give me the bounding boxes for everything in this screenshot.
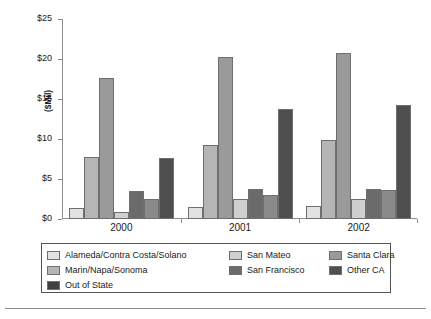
bar (278, 109, 293, 219)
bar (381, 190, 396, 219)
bar (396, 105, 411, 219)
legend-item-label: San Francisco (247, 266, 305, 275)
bar (159, 158, 174, 219)
bar (336, 53, 351, 219)
x-tick-label: 2001 (200, 222, 280, 233)
bar (188, 207, 203, 219)
legend-item[interactable]: Other CA (329, 266, 421, 275)
legend-item[interactable]: Out of State (47, 281, 229, 290)
bar (114, 212, 129, 219)
legend-swatch-icon (47, 266, 60, 275)
legend-item-label: Santa Clara (347, 251, 395, 260)
y-tick-label: $15 (37, 94, 52, 103)
x-tick-mark (299, 219, 300, 223)
bar (203, 145, 218, 219)
legend-item[interactable]: San Mateo (229, 251, 329, 260)
legend-item[interactable]: Alameda/Contra Costa/Solano (47, 251, 229, 260)
bar (129, 191, 144, 219)
legend-swatch-icon (329, 251, 342, 260)
legend-item-label: Alameda/Contra Costa/Solano (65, 251, 187, 260)
bar-chart-figure: ($Mil) $0$5$10$15$20$25 200020012002 Ala… (0, 0, 431, 319)
y-tick-mark (58, 219, 62, 220)
y-tick-label: $25 (37, 14, 52, 23)
x-tick-label: 2002 (319, 222, 399, 233)
y-tick-label: $10 (37, 134, 52, 143)
legend-item[interactable]: San Francisco (229, 266, 329, 275)
legend-item[interactable]: Marin/Napa/Sonoma (47, 266, 229, 275)
bar (321, 140, 336, 219)
plot-area: ($Mil) $0$5$10$15$20$25 200020012002 (0, 0, 431, 236)
legend-swatch-icon (229, 251, 242, 260)
legend-grid: Alameda/Contra Costa/SolanoSan MateoSant… (47, 248, 387, 293)
bar (69, 208, 84, 219)
bars-container (62, 19, 418, 219)
bar (248, 189, 263, 219)
legend-item-label: San Mateo (247, 251, 291, 260)
legend-item[interactable]: Santa Clara (329, 251, 421, 260)
bar (233, 199, 248, 219)
bar (263, 195, 278, 219)
legend-swatch-icon (47, 251, 60, 260)
legend-swatch-icon (229, 266, 242, 275)
x-tick-mark (417, 219, 418, 223)
bar (144, 199, 159, 219)
bar (84, 157, 99, 219)
y-tick-label: $0 (42, 214, 52, 223)
x-tick-label: 2000 (81, 222, 161, 233)
legend-item-label: Out of State (65, 281, 113, 290)
legend-item-label: Other CA (347, 266, 385, 275)
bar (218, 57, 233, 219)
y-tick-label: $5 (42, 174, 52, 183)
y-tick-label: $20 (37, 54, 52, 63)
x-tick-mark (181, 219, 182, 223)
legend-item-label: Marin/Napa/Sonoma (65, 266, 148, 275)
bar (306, 206, 321, 219)
legend-swatch-icon (47, 281, 60, 290)
legend: Alameda/Contra Costa/SolanoSan MateoSant… (41, 243, 391, 293)
bar (99, 78, 114, 219)
footer-divider (5, 308, 426, 309)
legend-swatch-icon (329, 266, 342, 275)
y-axis-tick-labels: $0$5$10$15$20$25 (22, 0, 52, 236)
bar (366, 189, 381, 219)
bar (351, 199, 366, 219)
